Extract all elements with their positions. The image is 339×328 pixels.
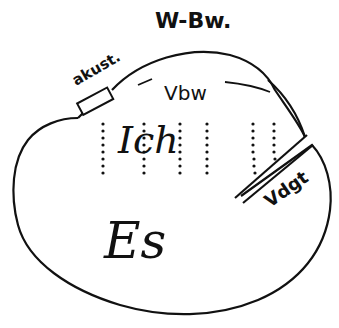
dotted-line-3 — [178, 122, 181, 174]
psychic-apparatus-diagram: W-Bw. akust. Vbw Ich Es Vdgt — [0, 0, 339, 328]
acoustic-cap — [77, 88, 113, 115]
label-vdgt: Vdgt — [260, 166, 312, 211]
dotted-line-5 — [251, 122, 256, 174]
label-w-bw: W-Bw. — [155, 8, 231, 33]
vbw-left-hook — [138, 79, 152, 85]
dotted-line-1 — [101, 122, 104, 174]
vbw-right-hook — [225, 82, 270, 92]
dotted-line-4 — [205, 122, 208, 174]
label-es: Es — [103, 212, 166, 270]
label-ich: Ich — [117, 118, 179, 162]
label-vbw: Vbw — [164, 81, 207, 105]
label-akust: akust. — [69, 48, 124, 90]
dotted-line-6 — [272, 122, 276, 160]
